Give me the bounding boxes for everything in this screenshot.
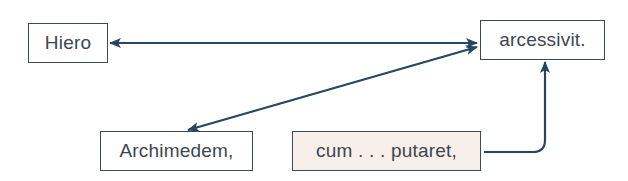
edge-cum-putaret-arcessivit xyxy=(484,62,545,152)
node-arcessivit: arcessivit. xyxy=(480,20,605,60)
node-cum-putaret: cum . . . putaret, xyxy=(292,131,481,171)
edge-arcessivit-archimedem xyxy=(188,47,477,130)
node-archimedem-label: Archimedem, xyxy=(119,140,233,162)
node-arcessivit-label: arcessivit. xyxy=(499,29,586,51)
node-hiero: Hiero xyxy=(28,23,108,63)
node-cum-putaret-label: cum . . . putaret, xyxy=(316,140,457,162)
node-hiero-label: Hiero xyxy=(45,32,91,54)
node-archimedem: Archimedem, xyxy=(100,131,253,171)
